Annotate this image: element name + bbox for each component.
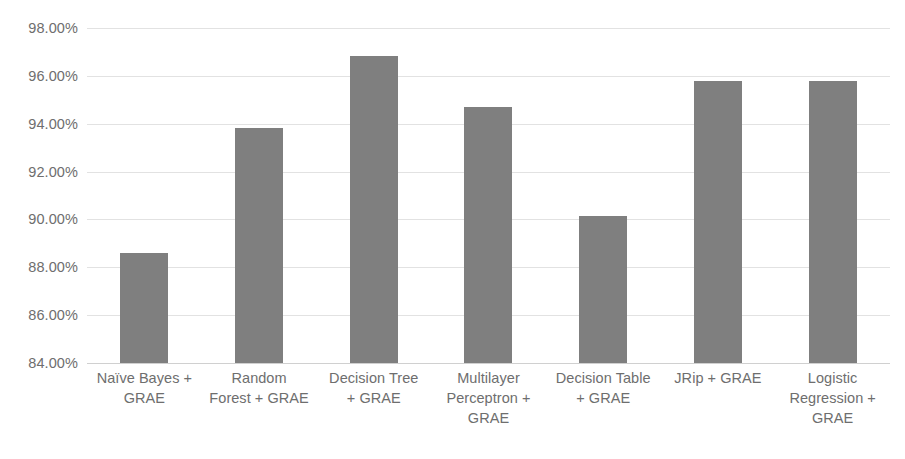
- bar-slot: [431, 28, 546, 363]
- bars-layer: [87, 28, 890, 363]
- bar-slot: [661, 28, 776, 363]
- bar-slot: [316, 28, 431, 363]
- bar[interactable]: [579, 216, 627, 363]
- y-axis-tick-label: 98.00%: [0, 21, 78, 36]
- y-axis-tick-label: 88.00%: [0, 260, 78, 275]
- y-axis-tick-label: 96.00%: [0, 69, 78, 84]
- y-axis-tick-label: 90.00%: [0, 212, 78, 227]
- plot-area: [87, 28, 890, 363]
- x-axis-tick-label-line: Regression +: [775, 388, 890, 408]
- x-axis-tick-label-line: GRAE: [775, 408, 890, 428]
- x-axis-tick-label-line: Random: [202, 368, 317, 388]
- bar-slot: [546, 28, 661, 363]
- bar[interactable]: [235, 128, 283, 363]
- bar[interactable]: [120, 253, 168, 363]
- bar-slot: [775, 28, 890, 363]
- x-axis-tick-label-line: Decision Tree: [316, 368, 431, 388]
- y-axis: 98.00%96.00%94.00%92.00%90.00%88.00%86.0…: [0, 0, 78, 380]
- x-axis-tick-label-line: + GRAE: [546, 388, 661, 408]
- x-axis-tick-label: Decision Table+ GRAE: [546, 368, 661, 408]
- y-axis-tick-label: 84.00%: [0, 356, 78, 371]
- y-axis-tick-label: 86.00%: [0, 308, 78, 323]
- bar[interactable]: [694, 81, 742, 363]
- bar[interactable]: [809, 81, 857, 363]
- x-axis-tick-label: LogisticRegression +GRAE: [775, 368, 890, 428]
- bar-slot: [87, 28, 202, 363]
- x-axis-tick-label-line: Decision Table: [546, 368, 661, 388]
- axis-baseline: [87, 363, 890, 364]
- x-axis-tick-label-line: Forest + GRAE: [202, 388, 317, 408]
- bar[interactable]: [464, 107, 512, 363]
- x-axis-tick-label-line: GRAE: [431, 408, 546, 428]
- x-axis-tick-label-line: JRip + GRAE: [661, 368, 776, 388]
- x-axis-tick-label: JRip + GRAE: [661, 368, 776, 388]
- x-axis-tick-label: RandomForest + GRAE: [202, 368, 317, 408]
- bar-slot: [202, 28, 317, 363]
- y-axis-tick-label: 94.00%: [0, 116, 78, 131]
- bar-chart: 98.00%96.00%94.00%92.00%90.00%88.00%86.0…: [0, 0, 905, 459]
- x-axis-tick-label-line: Logistic: [775, 368, 890, 388]
- x-axis: Naïve Bayes +GRAERandomForest + GRAEDeci…: [87, 368, 890, 456]
- x-axis-tick-label-line: Multilayer: [431, 368, 546, 388]
- x-axis-tick-label-line: GRAE: [87, 388, 202, 408]
- x-axis-tick-label: Decision Tree+ GRAE: [316, 368, 431, 408]
- y-axis-tick-label: 92.00%: [0, 164, 78, 179]
- x-axis-tick-label: MultilayerPerceptron +GRAE: [431, 368, 546, 428]
- bar[interactable]: [350, 56, 398, 363]
- x-axis-tick-label-line: Naïve Bayes +: [87, 368, 202, 388]
- x-axis-tick-label-line: Perceptron +: [431, 388, 546, 408]
- x-axis-tick-label: Naïve Bayes +GRAE: [87, 368, 202, 408]
- x-axis-tick-label-line: + GRAE: [316, 388, 431, 408]
